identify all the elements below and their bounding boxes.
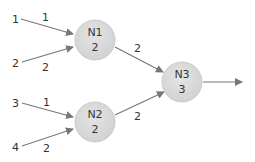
input-edge-2: 2 2 [12, 47, 73, 74]
input-label: 1 [12, 13, 19, 26]
input-edge-1: 1 1 [12, 11, 73, 34]
input-label: 3 [12, 97, 19, 110]
node-value: 2 [92, 123, 99, 136]
node-n2: N2 2 [75, 102, 115, 142]
node-n3: N3 3 [162, 62, 202, 102]
node-value: 2 [92, 41, 99, 54]
node-name: N1 [87, 26, 102, 39]
node-value: 3 [179, 83, 186, 96]
node-name: N3 [174, 68, 189, 81]
node-n1: N1 2 [75, 20, 115, 60]
edge-weight: 2 [134, 42, 141, 55]
edge-weight: 2 [42, 61, 49, 74]
input-edge-4: 4 2 [12, 129, 73, 155]
edge-weight: 2 [134, 110, 141, 123]
edge-n1-n3: 2 [115, 42, 163, 72]
input-edge-3: 3 1 [12, 96, 73, 117]
edge-weight: 1 [42, 11, 49, 24]
input-label: 2 [12, 57, 19, 70]
neural-network-diagram: 1 1 2 2 3 1 4 2 2 2 N1 2 N2 2 [0, 0, 255, 162]
edge-weight: 1 [43, 96, 50, 109]
edge-n2-n3: 2 [115, 92, 164, 123]
node-name: N2 [87, 108, 102, 121]
edge-weight: 2 [43, 142, 50, 155]
input-label: 4 [12, 141, 19, 154]
